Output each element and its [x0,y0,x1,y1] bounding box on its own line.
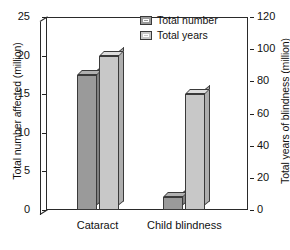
left-tick-label: 0 [12,204,30,215]
bar [185,94,205,210]
bar-side-face [119,47,124,205]
right-tick-mark [250,81,254,82]
plot-area [46,17,248,210]
right-tick-label: 0 [257,204,263,215]
legend-label: Total number [157,14,218,26]
legend-swatch-total-years [140,31,152,40]
frame-depth-left-edge [40,22,41,215]
right-axis-title: Total years of blindness (million) [279,16,290,206]
bar-front-face [163,197,183,210]
bar-front-face [77,75,97,210]
legend-label: Total years [157,29,208,41]
category-label: Child blindness [124,219,244,231]
right-axis-ticks: 020406080100120 [250,0,280,250]
bar [77,75,97,210]
bar-front-face [99,56,119,210]
right-tick-label: 60 [257,108,269,119]
left-tick-label: 10 [12,127,30,138]
right-tick-mark [250,114,254,115]
right-tick-mark [250,178,254,179]
legend-item: Total years [140,28,218,42]
right-tick-mark [250,210,254,211]
legend: Total number Total years [140,13,218,43]
right-tick-label: 100 [257,43,275,54]
bar [163,197,183,210]
bar-side-face [205,85,210,205]
legend-item: Total number [140,13,218,27]
bar-front-face [185,94,205,210]
right-tick-mark [250,146,254,147]
bar [99,56,119,210]
legend-swatch-total-number [140,16,152,25]
right-tick-label: 40 [257,140,269,151]
bar-chart: Total number affected (million) Total ye… [0,0,290,250]
right-tick-label: 80 [257,75,269,86]
left-axis-ticks: 0510152025 [12,0,38,250]
right-tick-mark [250,17,254,18]
left-tick-label: 25 [12,11,30,22]
right-tick-label: 120 [257,11,275,22]
left-tick-label: 20 [12,50,30,61]
right-tick-mark [250,49,254,50]
bar-top-face [99,51,124,56]
right-tick-label: 20 [257,172,269,183]
left-tick-label: 15 [12,88,30,99]
left-tick-label: 5 [12,165,30,176]
